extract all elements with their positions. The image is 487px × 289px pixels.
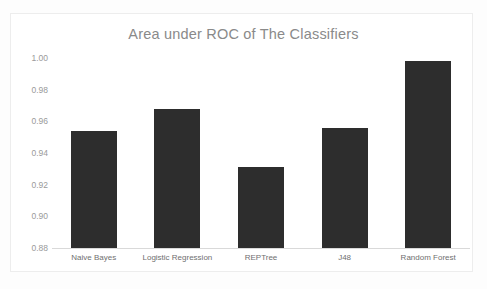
x-axis-category-label: Random Forest [401,253,456,262]
y-axis-tick-label: 0.90 [14,211,48,221]
plot-area [52,58,470,248]
chart-figure: Area under ROC of The Classifiers 1.000.… [0,0,487,289]
y-axis-tick-label: 0.92 [14,180,48,190]
bar [71,131,117,248]
y-axis-tick-label: 0.88 [14,243,48,253]
y-axis-tick-label: 1.00 [14,53,48,63]
bar [154,109,200,248]
bar [405,61,451,248]
x-axis-category-label: J48 [338,253,351,262]
x-axis-category-label: Logistic Regression [142,253,212,262]
x-axis-category-label: Naive Bayes [71,253,116,262]
bar [238,167,284,248]
y-axis-tick-label: 0.94 [14,148,48,158]
chart-title: Area under ROC of The Classifiers [0,26,487,42]
bar [322,128,368,248]
x-axis-category-label: REPTree [245,253,278,262]
y-axis-tick-label: 0.96 [14,116,48,126]
x-axis-line [52,248,470,249]
y-axis-tick-label: 0.98 [14,85,48,95]
